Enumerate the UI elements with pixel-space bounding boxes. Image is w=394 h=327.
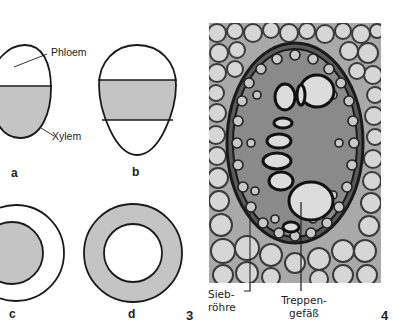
label-treppengefaess: Treppen- gefäß (278, 294, 330, 320)
label-siebroehre: Sieb- röhre (208, 288, 236, 314)
micrograph-leader-lines (0, 0, 394, 327)
label-siebroehre-line2: röhre (208, 301, 236, 314)
label-treppengefaess-line2: gefäß (278, 307, 330, 320)
figure-number-4: 4 (381, 309, 388, 322)
label-treppengefaess-line1: Treppen- (278, 294, 330, 307)
label-siebroehre-line1: Sieb- (208, 288, 236, 301)
